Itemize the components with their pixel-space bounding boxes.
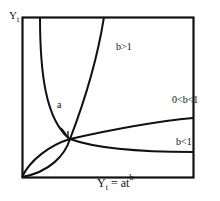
equation-caption: Yt = atb	[97, 172, 134, 192]
point-label-a: a	[57, 99, 62, 110]
label-b-between-0-and-1: 0<b<1	[172, 94, 198, 105]
curve-b-less-than-1	[40, 17, 193, 152]
y-axis-label: Yt	[9, 9, 20, 24]
power-law-diagram: Yt b>1 0<b<1 b<1 a Yt = atb	[0, 0, 220, 201]
label-b-less-than-1: b<1	[176, 136, 192, 147]
curve-b-greater-than-1	[22, 17, 104, 177]
label-b-greater-than-1: b>1	[116, 41, 132, 52]
